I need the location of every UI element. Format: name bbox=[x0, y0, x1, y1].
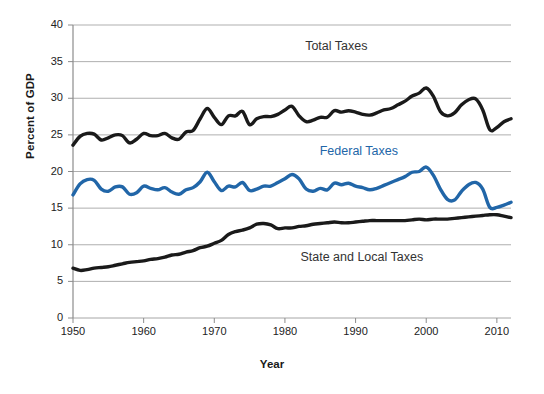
series-label-total-taxes: Total Taxes bbox=[305, 39, 367, 53]
y-tick-label: 15 bbox=[33, 201, 63, 213]
series-label-state-and-local-taxes: State and Local Taxes bbox=[300, 250, 423, 264]
series-line bbox=[73, 167, 511, 209]
x-tick-label: 2010 bbox=[467, 325, 527, 337]
y-tick-label: 0 bbox=[33, 311, 63, 323]
y-tick-label: 25 bbox=[33, 128, 63, 140]
x-tick-label: 1950 bbox=[43, 325, 103, 337]
tax-revenue-line-chart: 0510152025303540 19501960197019801990200… bbox=[0, 0, 544, 394]
series-line bbox=[73, 88, 511, 145]
y-tick-label: 30 bbox=[33, 91, 63, 103]
x-tick-label: 1960 bbox=[114, 325, 174, 337]
y-tick-label: 5 bbox=[33, 274, 63, 286]
series-line bbox=[73, 215, 511, 271]
y-tick-label: 40 bbox=[33, 18, 63, 30]
series-label-federal-taxes: Federal Taxes bbox=[320, 144, 398, 158]
x-tick-marks-group bbox=[73, 318, 497, 323]
data-series-group bbox=[73, 88, 511, 270]
y-axis-title: Percent of GDP bbox=[24, 46, 36, 186]
x-tick-label: 1990 bbox=[326, 325, 386, 337]
y-tick-marks-group bbox=[68, 25, 73, 318]
gridlines-group bbox=[73, 25, 511, 318]
x-tick-label: 1980 bbox=[255, 325, 315, 337]
x-tick-label: 1970 bbox=[184, 325, 244, 337]
x-tick-label: 2000 bbox=[396, 325, 456, 337]
y-tick-label: 20 bbox=[33, 165, 63, 177]
x-axis-title: Year bbox=[0, 358, 544, 370]
y-tick-label: 10 bbox=[33, 238, 63, 250]
y-tick-label: 35 bbox=[33, 55, 63, 67]
